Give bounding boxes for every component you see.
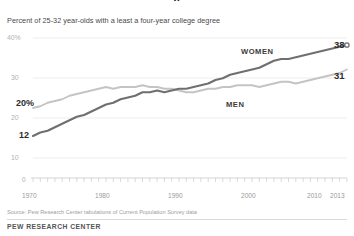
footer-divider — [7, 219, 347, 220]
chart-figure: a Percent of 25-32 year-olds with a leas… — [0, 0, 354, 236]
plot-area — [0, 30, 354, 185]
women-start-value: 12 — [19, 130, 29, 140]
y-tick-0: 0 — [22, 176, 26, 183]
x-tick-1970: 1970 — [22, 192, 37, 199]
page-title: a — [0, 0, 354, 1]
women-line — [33, 45, 347, 136]
chart-subtitle: Percent of 25-32 year-olds with a least … — [7, 16, 220, 25]
x-tick-2010: 2010 — [307, 192, 322, 199]
women-endpoint-marker — [345, 43, 349, 47]
y-tick-40: 40% — [7, 34, 21, 41]
x-tick-2000: 2000 — [241, 192, 256, 199]
series-label-women: WOMEN — [241, 47, 273, 56]
series-label-men: MEN — [226, 100, 244, 109]
men-end-value: 31 — [334, 70, 345, 81]
x-tick-1980: 1980 — [95, 192, 110, 199]
x-tick-1990: 1990 — [168, 192, 183, 199]
chart-svg — [0, 30, 354, 185]
source-note: Source: Pew Research Center tabulations … — [7, 209, 197, 215]
y-tick-20: 20 — [11, 114, 19, 121]
brand-label: PEW RESEARCH CENTER — [7, 223, 101, 230]
y-tick-10: 10 — [11, 154, 19, 161]
axis-baseline — [31, 178, 347, 182]
men-start-value: 20% — [16, 98, 34, 108]
women-end-value: 38 — [334, 39, 345, 50]
y-tick-30: 30 — [11, 74, 19, 81]
x-tick-2013: 2013 — [330, 192, 345, 199]
